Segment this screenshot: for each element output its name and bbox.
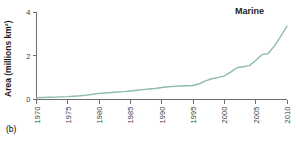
y-tick-label-2: 2 [26,52,30,61]
x-tick-label-2010: 2010 [283,107,292,124]
x-tick-label-1980: 1980 [95,107,104,124]
x-tick-label-1970: 1970 [33,107,42,124]
y-axis-title: Area (millions km²) [3,20,13,97]
x-axis-tick-labels: 197019751980198519901995200020052010 [33,107,293,124]
y-tick-label-0: 0 [26,95,30,104]
chart-panel: 024 197019751980198519901995200020052010… [0,0,296,141]
x-axis-ticks [37,100,288,104]
x-tick-label-1975: 1975 [64,107,73,124]
x-tick-label-1985: 1985 [126,107,135,124]
data-line-marine [37,26,288,98]
x-tick-label-2000: 2000 [220,107,229,124]
y-axis-tick-labels: 024 [26,8,30,105]
x-tick-label-2005: 2005 [252,107,261,124]
panel-label: (b) [6,124,16,134]
marine-protected-area-line-chart: 024 197019751980198519901995200020052010… [0,0,296,141]
y-axis-ticks [33,12,37,100]
y-tick-label-4: 4 [26,8,30,17]
x-tick-label-1995: 1995 [189,107,198,124]
series-label-marine: Marine [235,6,264,16]
x-tick-label-1990: 1990 [158,107,167,124]
